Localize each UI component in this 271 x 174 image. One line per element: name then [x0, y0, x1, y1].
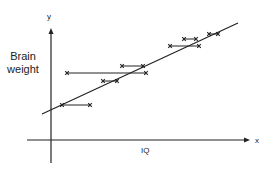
x-axis: [27, 138, 250, 143]
y-axis: [49, 28, 54, 163]
x-axis-letter: x: [255, 136, 259, 145]
y-axis-letter: y: [47, 12, 51, 21]
regression-diagram: [0, 0, 271, 174]
y-axis-arrow-icon: [49, 28, 54, 34]
x-axis-arrow-icon: [244, 138, 250, 143]
data-segments: [60, 32, 220, 107]
regression-line: [42, 23, 238, 114]
y-axis-label: Brain weight: [2, 50, 44, 75]
x-axis-label: IQ: [141, 146, 149, 155]
